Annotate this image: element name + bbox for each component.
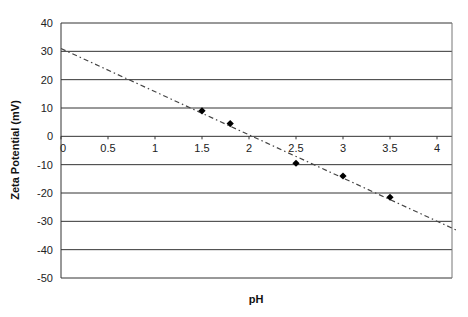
x-axis-ticks: 00.511.522.533.54 — [60, 136, 440, 154]
zeta-potential-chart: 403020100-10-20-30-40-50 00.511.522.533.… — [0, 0, 468, 317]
data-point-diamond — [292, 160, 299, 167]
y-tick-label: 40 — [41, 17, 53, 29]
trendline-path — [61, 49, 456, 230]
y-axis-title: Zeta Potential (mV) — [9, 100, 21, 200]
y-axis-ticks: 403020100-10-20-30-40-50 — [37, 17, 53, 284]
data-point-diamond — [227, 120, 234, 127]
y-tick-label: 30 — [41, 45, 53, 57]
y-tick-label: -20 — [37, 187, 53, 199]
x-tick-label: 1 — [152, 142, 158, 154]
x-axis-title: pH — [249, 293, 264, 305]
y-tick-label: -50 — [37, 272, 53, 284]
trendline — [61, 49, 456, 230]
x-tick-label: 1.5 — [194, 142, 209, 154]
x-tick-label: 3.5 — [382, 142, 397, 154]
y-tick-label: 20 — [41, 74, 53, 86]
y-tick-label: -40 — [37, 244, 53, 256]
data-point-diamond — [386, 194, 393, 201]
x-tick-label: 0.5 — [100, 142, 115, 154]
data-point-diamond — [339, 172, 346, 179]
x-tick-label: 2.5 — [288, 142, 303, 154]
y-tick-label: 10 — [41, 102, 53, 114]
x-tick-label: 0 — [60, 142, 66, 154]
y-tick-label: -10 — [37, 159, 53, 171]
x-tick-label: 4 — [434, 142, 440, 154]
x-tick-label: 3 — [340, 142, 346, 154]
x-tick-label: 2 — [246, 142, 252, 154]
y-tick-label: 0 — [47, 130, 53, 142]
y-tick-label: -30 — [37, 215, 53, 227]
